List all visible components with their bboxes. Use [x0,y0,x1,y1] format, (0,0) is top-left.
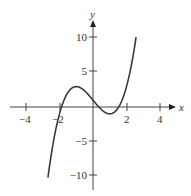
y-axis-label: y [89,8,95,20]
x-axis-arrow-icon [169,104,176,110]
x-tick-label: 4 [157,113,163,125]
y-tick-label: 10 [76,31,88,43]
x-tick-label: 2 [124,113,130,125]
y-tick-label: 5 [82,65,88,77]
x-tick-label: −4 [19,113,31,125]
y-axis-arrow-icon [90,20,96,27]
cubic-function-chart: x y −4 −2 2 4 10 5 −5 −10 [0,0,191,196]
y-tick-label: −10 [70,169,88,181]
y-tick-label: −5 [75,135,87,147]
x-axis-label: x [178,101,184,113]
